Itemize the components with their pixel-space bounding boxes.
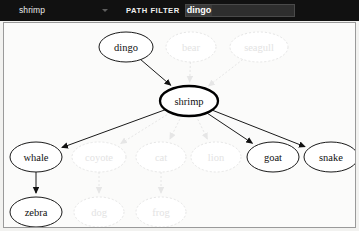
path-filter-label: PATH FILTER [126,6,180,15]
graph-edge [196,116,207,139]
graph-node-label: bear [182,42,201,53]
graph-node-label: coyote [85,152,113,163]
node-select-dropdown[interactable]: shrimp [17,3,114,18]
graph-node[interactable]: bear [166,32,216,62]
graph-edge [141,60,171,86]
graph-node-label: dog [91,207,108,218]
graph-node[interactable]: dog [74,197,124,227]
graph-node[interactable]: dingo [99,32,153,62]
graph-svg: dingobearseagullshrimpwhalecoyotecatlion… [3,22,356,228]
graph-node[interactable]: goat [247,142,299,172]
graph-edge [190,62,191,82]
graph-node[interactable]: seagull [230,32,288,62]
path-filter-value: dingo [186,5,213,16]
graph-node-label: cat [155,152,167,163]
graph-node[interactable]: cat [136,142,186,172]
path-filter-selection-highlight [212,5,294,16]
graph-node-label: zebra [25,207,48,218]
graph-node-label: frog [152,207,170,218]
node-select-value: shrimp [19,5,45,15]
graph-edge [170,116,182,139]
edges-layer [36,60,305,194]
graph-node-label: seagull [244,42,274,53]
graph-node[interactable]: whale [10,142,62,172]
graph-canvas[interactable]: dingobearseagullshrimpwhalecoyotecatlion… [3,22,356,228]
graph-node-label: whale [23,152,48,163]
path-filter-input[interactable]: dingo [185,4,295,17]
graph-node[interactable]: snake [304,142,356,172]
graph-node-label: dingo [114,42,138,53]
graph-node[interactable]: lion [191,142,241,172]
graph-node-label: goat [264,152,282,163]
graph-node-label: shrimp [174,96,203,107]
graph-node-label: snake [319,152,343,163]
graph-node[interactable]: shrimp [160,86,218,116]
graph-explorer-window: shrimp PATH FILTER dingo dingobearseagul… [0,0,359,231]
graph-edge [212,110,305,147]
graph-edge [209,60,243,86]
nodes-layer: dingobearseagullshrimpwhalecoyotecatlion… [10,32,356,227]
graph-edge [62,110,165,148]
toolbar-spacer [0,10,17,11]
chevron-down-icon [102,9,108,12]
toolbar: shrimp PATH FILTER dingo [0,0,359,21]
graph-node-label: lion [208,152,225,163]
graph-node[interactable]: zebra [10,197,62,227]
graph-node[interactable]: coyote [72,142,126,172]
graph-node[interactable]: frog [136,197,186,227]
